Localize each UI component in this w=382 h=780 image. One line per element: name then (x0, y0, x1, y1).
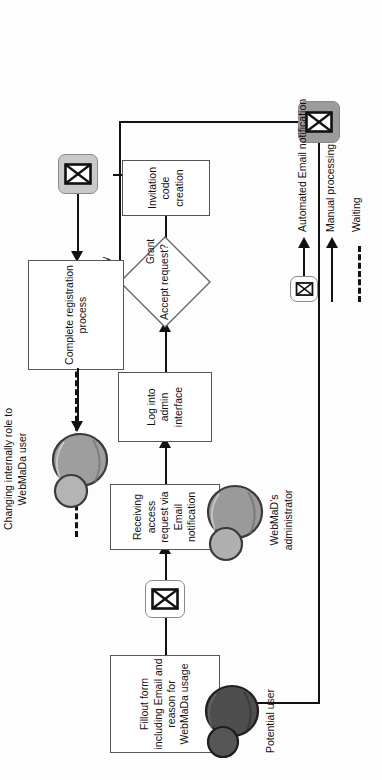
edge-label-grant: Grant (145, 239, 156, 264)
caption-outcome-note: Changing internally role to WebMaDa user (2, 406, 29, 532)
node-complete-registration-label: Complete registration process (63, 263, 90, 367)
envelope-icon (295, 282, 314, 296)
edge-email1-to-receiving (165, 550, 167, 583)
edge-form-to-email1 (165, 618, 167, 656)
person-icon (198, 482, 266, 564)
envelope-icon (64, 163, 92, 185)
avatar-potential-user (196, 684, 262, 762)
edge-login-to-decision (165, 328, 167, 372)
edge-registration-to-outcome (77, 368, 79, 426)
legend-envelope-icon (290, 276, 318, 302)
node-complete-registration[interactable]: Complete registration process (28, 260, 124, 370)
node-accept-request-decision[interactable]: Accept request? (119, 236, 211, 328)
envelope-icon (305, 111, 333, 133)
edge-receiving-to-login (165, 444, 167, 486)
flowchart-canvas: Fillout form including Email and reason … (0, 0, 382, 780)
caption-potential-user: Potential user (264, 678, 278, 764)
legend-dashed-line-icon (358, 246, 361, 302)
node-invitation-code-creation-label: Invitation code creation (146, 163, 186, 213)
legend-label-automated-email: Automated Email notification (296, 99, 308, 232)
email-notification-icon-1[interactable] (145, 580, 185, 618)
node-log-into-admin-label: Log into admin interface (145, 375, 185, 439)
avatar-webmada-administrator (198, 482, 266, 564)
person-icon (196, 684, 262, 762)
node-fillout-form-label: Fillout form including Email and reason … (138, 658, 192, 750)
email-notification-icon-2[interactable] (58, 154, 98, 194)
legend-label-waiting: Waiting (350, 197, 362, 232)
envelope-icon (151, 588, 179, 610)
node-accept-request-label: Accept request? (119, 236, 211, 328)
node-log-into-admin[interactable]: Log into admin interface (118, 372, 212, 442)
legend-arrowhead-1 (298, 237, 310, 248)
avatar-webmada-user-outcome (42, 430, 112, 510)
node-receiving-request-label: Receiving access request via Email notif… (131, 487, 198, 547)
edge-email2-to-registration (77, 194, 79, 256)
legend-arrow-line-1 (303, 246, 305, 276)
legend-arrowhead-2 (326, 237, 338, 248)
caption-webmada-administrator: WebMaD's administrator (268, 468, 295, 572)
person-icon (42, 430, 112, 510)
legend-arrow-line-2 (331, 246, 333, 302)
edge-deny-rail-down (120, 121, 320, 123)
legend-label-manual-processing: Manual processing (324, 144, 336, 232)
edge-deny-return-bus (318, 121, 320, 704)
node-invitation-code-creation[interactable]: Invitation code creation (122, 160, 210, 216)
